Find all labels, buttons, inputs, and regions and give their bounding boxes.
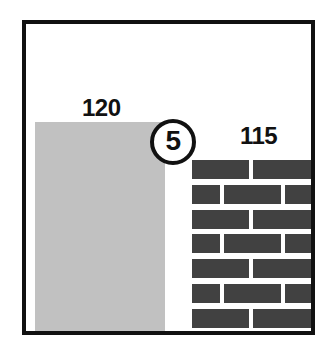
callout-number: 5 <box>165 127 180 155</box>
brick-course <box>192 160 311 179</box>
dimension-label-brick-wall: 115 <box>240 124 277 148</box>
brick <box>285 234 311 253</box>
brick <box>253 309 311 328</box>
brick <box>192 309 249 328</box>
brick <box>224 234 281 253</box>
masonry-wall-diagram: 5 120 115 <box>0 0 333 351</box>
brick-course <box>192 284 311 303</box>
brick-course <box>192 259 311 278</box>
brick-course <box>192 210 311 229</box>
brick <box>192 284 220 303</box>
diagram-stage: 5 120 115 <box>26 24 311 331</box>
brick <box>253 160 311 179</box>
block-wall-120 <box>35 122 165 331</box>
diagram-frame: 5 120 115 <box>22 20 315 335</box>
brick-course <box>192 309 311 328</box>
brick <box>285 185 311 204</box>
brick <box>224 185 281 204</box>
dimension-label-block-wall: 120 <box>82 96 121 120</box>
brick <box>192 259 249 278</box>
brick <box>224 284 281 303</box>
brick <box>253 259 311 278</box>
brick <box>285 284 311 303</box>
brick <box>192 234 220 253</box>
brick <box>192 160 249 179</box>
callout-marker-5[interactable]: 5 <box>150 119 196 165</box>
brick <box>253 210 311 229</box>
brick <box>192 185 220 204</box>
brick-course <box>192 234 311 253</box>
brick-course <box>192 185 311 204</box>
brick-wall-115 <box>192 160 311 331</box>
brick <box>192 210 249 229</box>
